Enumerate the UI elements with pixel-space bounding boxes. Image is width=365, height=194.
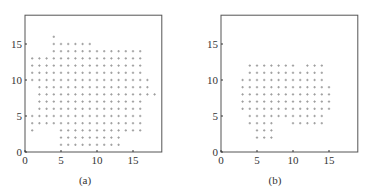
x-tick-label: 5 [58,154,64,166]
y-tick-label: 0 [213,146,219,158]
x-tick-label: 0 [22,154,28,166]
y-tick-label: 5 [17,110,23,122]
y-tick-label: 10 [11,74,23,86]
scatter-plot-b: 051015051015 [182,0,365,194]
subplot-a: 051015051015 (a) [0,0,182,194]
y-tick-label: 5 [213,110,219,122]
scatter-plot-a: 051015051015 [0,0,182,194]
x-tick-label: 0 [218,154,224,166]
caption-b: (b) [255,174,295,186]
y-tick-label: 15 [207,38,219,50]
y-tick-label: 15 [11,38,23,50]
data-points [31,36,156,146]
caption-a: (a) [65,174,105,186]
subplot-b: 051015051015 (b) [182,0,364,194]
x-tick-label: 15 [324,154,336,166]
x-tick-label: 10 [92,154,104,166]
x-tick-label: 5 [254,154,260,166]
x-tick-label: 15 [128,154,140,166]
plot-frame [25,15,162,152]
y-tick-label: 0 [17,146,23,158]
x-tick-label: 10 [288,154,300,166]
y-tick-label: 10 [207,74,219,86]
plot-frame [221,15,358,152]
data-points [241,64,330,138]
